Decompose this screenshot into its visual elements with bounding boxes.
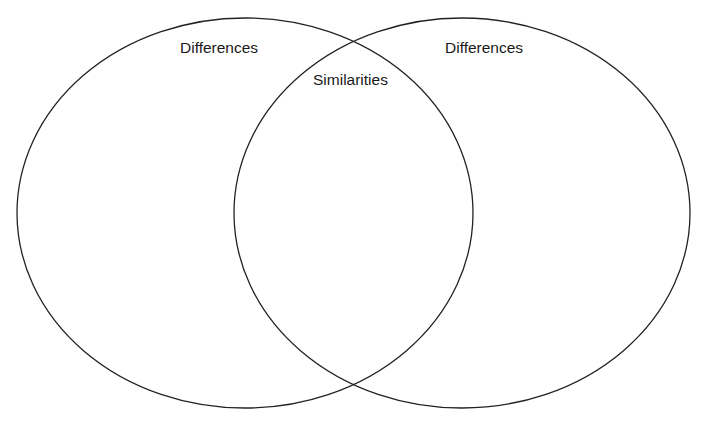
left-set-label: Differences <box>180 39 258 57</box>
left-set-ellipse <box>17 18 473 408</box>
venn-diagram-shapes <box>0 0 701 429</box>
venn-diagram: Differences Similarities Differences <box>0 0 701 429</box>
right-set-ellipse <box>234 18 690 408</box>
intersection-label: Similarities <box>313 71 388 89</box>
right-set-label: Differences <box>445 39 523 57</box>
